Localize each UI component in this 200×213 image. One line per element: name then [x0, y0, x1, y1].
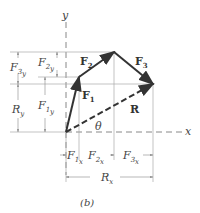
- label-r: R: [130, 104, 139, 115]
- angle-theta-label: θ: [95, 121, 102, 132]
- vector-addition-diagram: y x F2 F3 F1 R θ F3y F2y Ry F1y F1x F2x …: [0, 0, 200, 213]
- label-f2y: F2y: [38, 57, 54, 74]
- label-f1x: F1x: [67, 150, 83, 167]
- x-axis-label: x: [185, 126, 191, 137]
- label-ry: Ry: [12, 104, 24, 118]
- figure-caption: (b): [80, 198, 94, 208]
- label-rx: Rx: [100, 172, 114, 186]
- label-f3: F3: [135, 56, 148, 69]
- label-f1: F1: [82, 90, 95, 103]
- label-f2x: F2x: [88, 150, 104, 167]
- vector-f1: [66, 77, 79, 132]
- label-f3x: F3x: [123, 150, 139, 167]
- label-f1y: F1y: [38, 100, 54, 117]
- label-f2: F2: [80, 56, 93, 69]
- y-axis-label: y: [62, 10, 68, 21]
- label-f3y: F3y: [10, 62, 26, 79]
